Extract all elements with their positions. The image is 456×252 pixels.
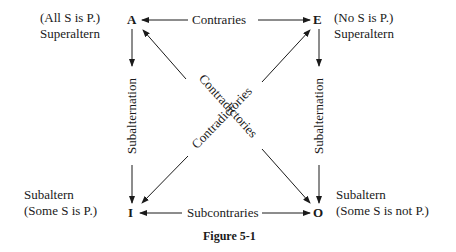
corner-a-proposition: (All S is P.) — [40, 10, 100, 26]
figure-caption: Figure 5-1 — [203, 229, 256, 244]
relation-subalternation-right: Subalternation — [311, 66, 327, 166]
corner-o-proposition: (Some S is not P.) — [336, 203, 429, 219]
corner-i-letter: I — [128, 205, 133, 221]
corner-o-role: Subaltern — [336, 187, 386, 203]
corner-a-letter: A — [127, 12, 136, 28]
corner-o-letter: O — [313, 205, 323, 221]
relation-contraries: Contraries — [192, 12, 246, 28]
corner-a-role: Superaltern — [40, 26, 100, 42]
corner-i-proposition: (Some S is P.) — [24, 203, 97, 219]
relation-subalternation-left: Subalternation — [124, 66, 140, 166]
corner-e-role: Superaltern — [334, 26, 394, 42]
corner-e-proposition: (No S is P.) — [334, 10, 393, 26]
corner-i-role: Subaltern — [24, 187, 74, 203]
relation-subcontraries: Subcontraries — [187, 205, 258, 221]
corner-e-letter: E — [313, 12, 322, 28]
